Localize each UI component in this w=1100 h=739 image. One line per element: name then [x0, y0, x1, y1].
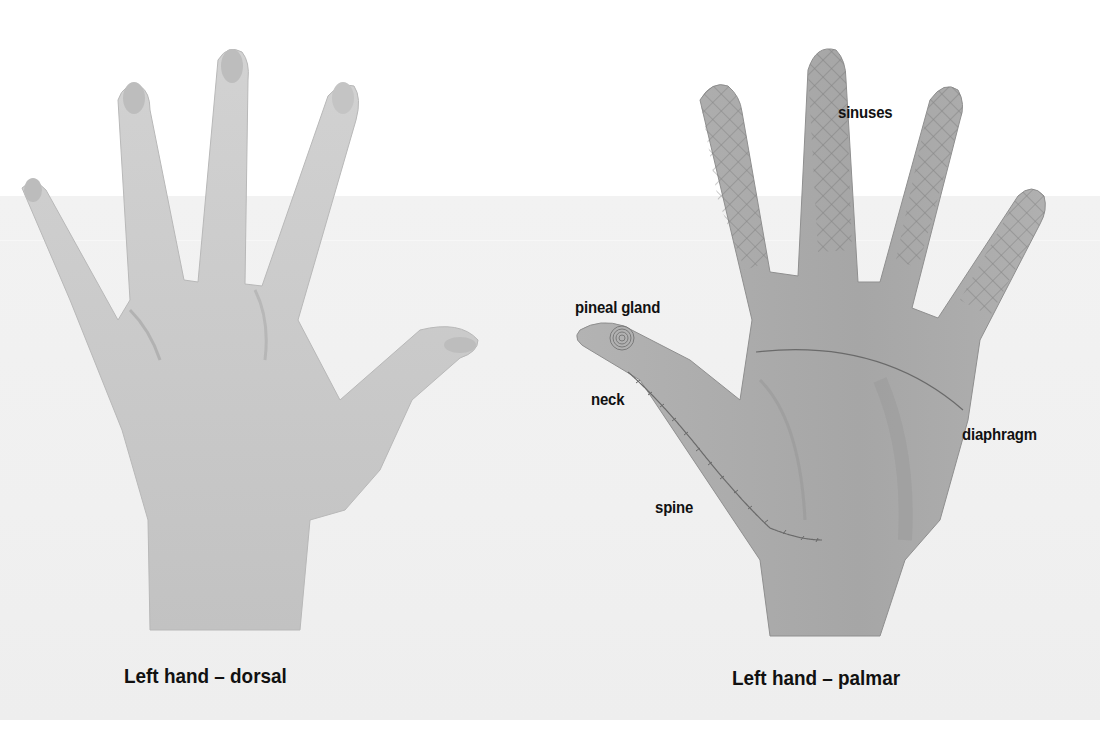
caption-dorsal: Left hand – dorsal — [124, 664, 287, 688]
label-pineal-gland: pineal gland — [575, 298, 660, 318]
left-hand-palmar — [577, 49, 1046, 636]
label-neck: neck — [591, 390, 624, 410]
label-diaphragm: diaphragm — [962, 425, 1037, 445]
left-hand-dorsal — [22, 49, 478, 630]
label-spine: spine — [655, 498, 693, 518]
hands-illustration — [0, 0, 1100, 739]
label-sinuses: sinuses — [838, 103, 892, 123]
caption-palmar: Left hand – palmar — [732, 666, 900, 690]
